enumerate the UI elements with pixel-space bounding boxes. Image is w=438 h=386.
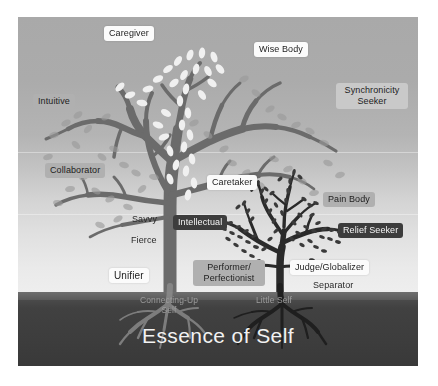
diagram-frame: Essence of Self Caregiver Wise Body Intu… — [18, 17, 418, 366]
label-connecting-up-self-line2: Self — [161, 305, 176, 315]
page-title: Essence of Self — [18, 324, 418, 348]
label-separator[interactable]: Separator — [308, 278, 358, 293]
label-intuitive[interactable]: Intuitive — [33, 94, 75, 109]
label-wise-body[interactable]: Wise Body — [254, 42, 308, 57]
label-synchronicity-seeker-line2: Seeker — [357, 96, 386, 106]
label-synchronicity-seeker[interactable]: Synchronicity Seeker — [336, 83, 408, 109]
label-synchronicity-seeker-line1: Synchronicity — [345, 85, 400, 95]
label-intellectual[interactable]: Intellectual — [173, 215, 227, 230]
illustration-canvas: Essence of Self Caregiver Wise Body Intu… — [0, 0, 438, 386]
label-collaborator[interactable]: Collaborator — [45, 163, 105, 178]
label-connecting-up-self-line1: Connecting-Up — [140, 295, 198, 305]
label-little-self[interactable]: Little Self — [251, 293, 297, 307]
label-performer-line1: Performer/ — [207, 262, 251, 272]
label-savvy[interactable]: Savvy — [127, 212, 162, 227]
label-relief-seeker[interactable]: Relief Seeker — [338, 223, 403, 238]
label-fierce[interactable]: Fierce — [126, 233, 162, 248]
label-connecting-up-self[interactable]: Connecting-Up Self — [126, 293, 212, 317]
label-pain-body[interactable]: Pain Body — [323, 192, 375, 207]
label-performer-line2: Perfectionist — [204, 273, 255, 283]
soil-band: Essence of Self — [18, 300, 418, 366]
label-caregiver[interactable]: Caregiver — [104, 26, 154, 41]
label-judge-globalizer[interactable]: Judge/Globalizer — [290, 260, 369, 275]
label-performer-perfectionist[interactable]: Performer/ Perfectionist — [193, 260, 265, 286]
label-unifier[interactable]: Unifier — [109, 268, 149, 283]
label-caretaker[interactable]: Caretaker — [207, 175, 257, 190]
